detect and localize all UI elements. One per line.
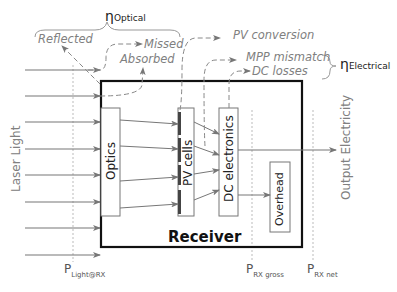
laser-light-label: Laser Light xyxy=(9,126,23,192)
dc-losses-label: DC losses xyxy=(252,64,308,78)
eta-electrical-label: ηElectrical xyxy=(340,56,390,72)
pv-conversion-label: PV conversion xyxy=(233,28,314,42)
missed-label: Missed xyxy=(144,37,183,51)
absorbed-label: Absorbed xyxy=(120,52,175,66)
output-electricity-label: Output Electricity xyxy=(339,95,353,200)
reflected-label: Reflected xyxy=(38,32,93,46)
p-rx-net-label: PRX net xyxy=(307,262,338,276)
receiver-label: Receiver xyxy=(168,228,241,246)
pv-cells-label: PV cells xyxy=(181,140,195,186)
eta-optical-label: ηOptical xyxy=(105,8,146,24)
mpp-mismatch-label: MPP mismatch xyxy=(246,50,330,64)
p-rx-gross-label: PRX gross xyxy=(246,262,284,276)
laser-arrows xyxy=(25,70,100,255)
overhead-label: Overhead xyxy=(273,172,286,226)
optics-label: Optics xyxy=(104,142,118,180)
dc-electronics-label: DC electronics xyxy=(222,115,236,202)
p-light-rx-label: PLight@RX xyxy=(64,262,105,276)
